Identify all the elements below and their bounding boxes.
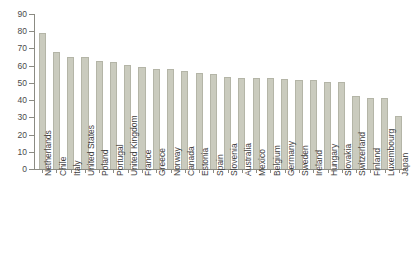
- y-axis-tick: [29, 66, 34, 67]
- bar-slot[interactable]: [395, 14, 402, 169]
- x-axis-category-label: Spain: [216, 154, 225, 176]
- bar-slot[interactable]: [96, 14, 103, 169]
- x-axis-category-label: Mexico: [258, 149, 267, 176]
- y-axis-tick: [29, 31, 34, 32]
- x-axis-category-label: Estonia: [201, 148, 210, 176]
- x-axis-category-label: Belgium: [273, 145, 282, 176]
- bar-slot[interactable]: [138, 14, 145, 169]
- y-axis-tick: [29, 48, 34, 49]
- y-axis-tick: [29, 152, 34, 153]
- bar-slot[interactable]: [53, 14, 60, 169]
- x-axis-category-label: Sweden: [301, 145, 310, 176]
- y-axis-tick-label: 20: [18, 130, 27, 140]
- x-axis-category-label: United Kingdom: [130, 116, 139, 176]
- bar-slot[interactable]: [67, 14, 74, 169]
- chart-footer-clipped: [0, 245, 414, 257]
- x-axis-category-label: Hungary: [330, 144, 339, 176]
- bar[interactable]: [53, 52, 60, 169]
- bar-slot[interactable]: [196, 14, 203, 169]
- bar-slot[interactable]: [153, 14, 160, 169]
- x-axis-category-label: Netherlands: [44, 130, 53, 176]
- x-axis-category-label: Australia: [244, 143, 253, 176]
- x-axis-category-label: Germany: [287, 141, 296, 176]
- y-axis-tick-label: 70: [18, 43, 27, 53]
- y-axis-tick-label: 10: [18, 147, 27, 157]
- bar-chart: 0102030405060708090 NetherlandsChileItal…: [0, 0, 414, 257]
- bar-slot[interactable]: [367, 14, 374, 169]
- x-axis-category-label: Italy: [73, 160, 82, 176]
- y-axis-tick: [29, 135, 34, 136]
- bar-slot[interactable]: [310, 14, 317, 169]
- bar-slot[interactable]: [253, 14, 260, 169]
- y-axis-tick-label: 40: [18, 95, 27, 105]
- x-axis-category-label: Japan: [401, 153, 410, 176]
- x-axis-category-label: Finland: [373, 148, 382, 176]
- x-axis-category-label: Greece: [158, 148, 167, 176]
- x-axis-category-label: Norway: [173, 147, 182, 176]
- y-axis-tick: [29, 117, 34, 118]
- x-axis-category-label: Ireland: [315, 150, 324, 176]
- y-axis-tick: [29, 83, 34, 84]
- x-axis-category-label: Luxembourg: [387, 129, 396, 176]
- y-axis-tick: [29, 169, 34, 170]
- chart-title-clipped: [0, 0, 414, 8]
- y-axis-tick-label: 60: [18, 61, 27, 71]
- x-axis-category-label: Chile: [59, 157, 68, 176]
- bar-slot[interactable]: [167, 14, 174, 169]
- y-axis-tick-label: 80: [18, 26, 27, 36]
- x-axis-category-label: Canada: [187, 146, 196, 176]
- bar-slot[interactable]: [210, 14, 217, 169]
- x-axis-category-label: Portugal: [116, 144, 125, 176]
- x-axis-category-label: Poland: [101, 150, 110, 176]
- x-axis-category-label: Slovakia: [344, 144, 353, 176]
- y-axis-tick-label: 30: [18, 112, 27, 122]
- x-axis-category-label: United States: [87, 125, 96, 176]
- y-axis-tick: [29, 100, 34, 101]
- y-axis-tick-label: 50: [18, 78, 27, 88]
- y-axis-tick: [29, 14, 34, 15]
- x-axis-category-label: France: [144, 150, 153, 176]
- y-axis-tick-label: 90: [18, 9, 27, 19]
- y-axis-tick-label: 0: [22, 164, 27, 174]
- x-axis-category-label: Switzerland: [358, 132, 367, 176]
- x-axis-category-label: Slovenia: [230, 143, 239, 176]
- bar[interactable]: [67, 57, 74, 169]
